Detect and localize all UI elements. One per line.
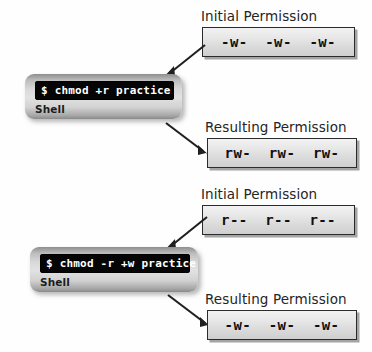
permission-box-resulting-2: -w- -w- -w- [207,310,357,340]
permission-value-resulting-2: -w- -w- -w- [225,317,340,333]
shell-command-text-1: $ chmod +r practice [41,84,171,97]
permission-value-initial-2: r-- r-- r-- [221,212,336,228]
shell-command-bar-1[interactable]: $ chmod +r practice [35,81,174,100]
heading-initial-permission-2: Initial Permission [201,186,317,202]
heading-resulting-permission-2: Resulting Permission [205,291,347,307]
permission-value-resulting-1: rw- rw- rw- [225,145,340,161]
shell-window-1[interactable]: $ chmod +r practice Shell [25,74,182,119]
heading-resulting-permission-1: Resulting Permission [205,119,347,135]
shell-window-2[interactable]: $ chmod -r +w practice Shell [30,247,198,292]
shell-label-2: Shell [40,276,190,288]
permission-box-initial-1: -w- -w- -w- [202,27,355,57]
permission-box-resulting-1: rw- rw- rw- [207,138,357,168]
heading-initial-permission-1: Initial Permission [201,8,317,24]
permission-value-initial-1: -w- -w- -w- [221,34,336,50]
diagram-canvas: Initial Permission -w- -w- -w- $ chmod +… [0,0,372,352]
permission-box-initial-2: r-- r-- r-- [202,205,355,235]
shell-command-text-2: $ chmod -r +w practice [46,257,196,270]
shell-label-1: Shell [35,103,174,115]
shell-command-bar-2[interactable]: $ chmod -r +w practice [40,254,190,273]
